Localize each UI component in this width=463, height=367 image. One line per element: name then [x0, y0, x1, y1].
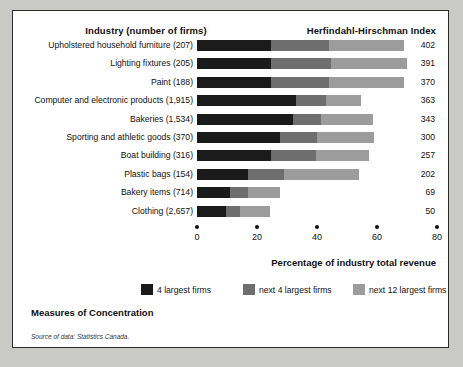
row-value-hhi: 257 [393, 149, 435, 162]
legend-label: next 12 largest firms [369, 285, 446, 295]
stacked-bar [197, 206, 270, 217]
bar-segment-1 [197, 169, 248, 180]
bar-segment-2 [230, 187, 248, 198]
chart-row: Clothing (2,657)50 [13, 205, 448, 218]
row-value-hhi: 402 [393, 39, 435, 52]
legend-item: next 12 largest firms [353, 279, 446, 291]
bar-segment-3 [284, 169, 359, 180]
bar-segment-2 [293, 114, 321, 125]
bar-segment-3 [317, 132, 374, 143]
axis-tick-dot [255, 225, 259, 229]
bar-segment-3 [316, 150, 369, 161]
chart-caption: Measures of Concentration [31, 307, 153, 318]
stacked-bar [197, 114, 373, 125]
stacked-bar [197, 95, 361, 106]
bar-segment-2 [296, 95, 326, 106]
legend-swatch [353, 284, 365, 295]
axis-tick-label: 60 [357, 232, 397, 242]
bar-segment-3 [248, 187, 280, 198]
axis-tick-dot [375, 225, 379, 229]
axis-tick-label: 20 [237, 232, 277, 242]
legend-item: 4 largest firms [141, 279, 211, 291]
legend-label: 4 largest firms [157, 285, 211, 295]
bar-segment-1 [197, 77, 271, 88]
row-value-hhi: 202 [393, 168, 435, 181]
stacked-bar [197, 169, 359, 180]
bar-segment-3 [240, 206, 270, 217]
row-label-industry: Plastic bags (154) [15, 168, 193, 181]
x-axis: 020406080 [13, 225, 450, 255]
row-value-hhi: 50 [393, 205, 435, 218]
chart-figure: Industry (number of firms) Herfindahl-Hi… [12, 10, 449, 348]
legend-item: next 4 largest firms [243, 279, 332, 291]
row-value-hhi: 343 [393, 113, 435, 126]
row-label-industry: Upholstered household furniture (207) [15, 39, 193, 52]
legend-label: next 4 largest firms [259, 285, 332, 295]
row-label-industry: Clothing (2,657) [15, 205, 193, 218]
axis-tick-dot [435, 225, 439, 229]
bar-segment-1 [197, 58, 271, 69]
chart-row: Plastic bags (154)202 [13, 168, 448, 181]
row-label-industry: Lighting fixtures (205) [15, 57, 193, 70]
row-label-industry: Bakeries (1,534) [15, 113, 193, 126]
chart-row: Bakery items (714)69 [13, 186, 448, 199]
bar-segment-3 [321, 114, 373, 125]
column-header-hhi: Herfindahl-Hirschman Index [281, 25, 436, 36]
legend-swatch [141, 284, 153, 295]
row-value-hhi: 363 [393, 94, 435, 107]
source-note: Source of data: Statistics Canada. [31, 333, 129, 340]
row-value-hhi: 370 [393, 76, 435, 89]
axis-tick-label: 40 [297, 232, 337, 242]
row-label-industry: Computer and electronic products (1,915) [15, 94, 193, 107]
bar-segment-1 [197, 187, 230, 198]
bar-segment-1 [197, 95, 296, 106]
chart-row: Paint (188)370 [13, 76, 448, 89]
bar-segment-2 [280, 132, 317, 143]
row-value-hhi: 300 [393, 131, 435, 144]
row-label-industry: Paint (188) [15, 76, 193, 89]
bar-segment-1 [197, 40, 271, 51]
stacked-bar [197, 40, 404, 51]
bar-segment-2 [271, 40, 329, 51]
chart-row: Bakeries (1,534)343 [13, 113, 448, 126]
x-axis-label: Percentage of industry total revenue [193, 257, 436, 268]
axis-tick-dot [315, 225, 319, 229]
chart-row: Computer and electronic products (1,915)… [13, 94, 448, 107]
axis-tick-label: 0 [177, 232, 217, 242]
legend-swatch [243, 284, 255, 295]
chart-legend: 4 largest firmsnext 4 largest firmsnext … [141, 279, 441, 293]
chart-row: Upholstered household furniture (207)402 [13, 39, 448, 52]
chart-row: Boat building (316)257 [13, 149, 448, 162]
bar-segment-2 [226, 206, 240, 217]
bar-segment-2 [248, 169, 284, 180]
row-label-industry: Boat building (316) [15, 149, 193, 162]
stacked-bar [197, 58, 407, 69]
chart-row: Lighting fixtures (205)391 [13, 57, 448, 70]
stacked-bar [197, 132, 374, 143]
axis-tick-dot [195, 225, 199, 229]
bar-segment-1 [197, 132, 280, 143]
bar-segment-2 [271, 58, 331, 69]
bar-segment-3 [326, 95, 361, 106]
bar-segment-1 [197, 150, 271, 161]
bar-segment-1 [197, 206, 226, 217]
stacked-bar [197, 187, 280, 198]
row-label-industry: Sporting and athletic goods (370) [15, 131, 193, 144]
axis-tick-label: 80 [417, 232, 457, 242]
stacked-bar [197, 150, 369, 161]
column-header-industry: Industry (number of firms) [61, 25, 231, 36]
row-label-industry: Bakery items (714) [15, 186, 193, 199]
stacked-bar [197, 77, 404, 88]
row-value-hhi: 69 [393, 186, 435, 199]
bar-segment-2 [271, 77, 329, 88]
bar-segment-1 [197, 114, 293, 125]
row-value-hhi: 391 [393, 57, 435, 70]
bar-segment-2 [271, 150, 316, 161]
chart-row: Sporting and athletic goods (370)300 [13, 131, 448, 144]
